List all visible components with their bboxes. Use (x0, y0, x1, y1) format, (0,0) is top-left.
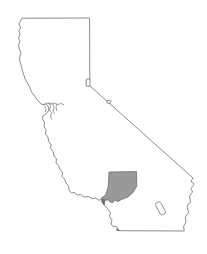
coast-notch (102, 200, 105, 205)
mono-lake-icon (107, 101, 111, 104)
lake-tahoe-icon (86, 79, 90, 86)
california-map-figure: California Los Angeles County Lake Tahoe… (0, 0, 207, 254)
california-map-svg (0, 0, 207, 254)
